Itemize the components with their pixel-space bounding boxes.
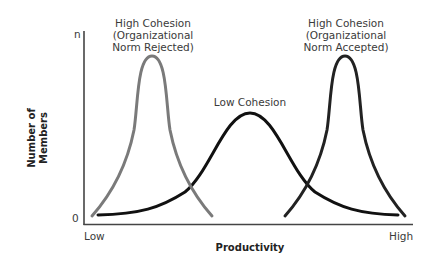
label-line: Low Cohesion	[205, 96, 295, 108]
label-low-cohesion: Low Cohesion	[205, 96, 295, 108]
label-norm-accepted: High Cohesion (Organizational Norm Accep…	[301, 17, 391, 53]
y-title-line: Members	[38, 102, 50, 174]
label-line: (Organizational	[301, 29, 391, 41]
label-line: Norm Accepted)	[301, 41, 391, 53]
label-norm-rejected: High Cohesion (Organizational Norm Rejec…	[108, 17, 198, 53]
label-line: Norm Rejected)	[108, 41, 198, 53]
y-tick-0: 0	[72, 212, 79, 224]
label-line: High Cohesion	[108, 17, 198, 29]
label-line: High Cohesion	[301, 17, 391, 29]
curve-high-cohesion-rejected	[92, 56, 212, 216]
x-tick-low: Low	[84, 230, 105, 242]
y-tick-n: n	[74, 28, 81, 40]
label-line: (Organizational	[108, 29, 198, 41]
y-axis-title: Number of Members	[26, 102, 50, 174]
x-axis-title: Productivity	[200, 242, 300, 254]
cohesion-productivity-chart: High Cohesion (Organizational Norm Rejec…	[0, 0, 436, 264]
curve-low-cohesion	[98, 113, 398, 215]
curve-high-cohesion-accepted	[285, 56, 405, 216]
x-tick-high: High	[389, 230, 413, 242]
y-title-line: Number of	[26, 102, 38, 174]
